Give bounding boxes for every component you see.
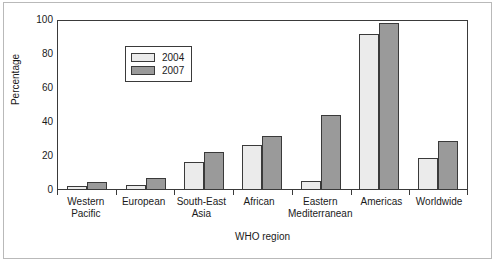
bar-2004 bbox=[418, 158, 438, 189]
x-category-label: European bbox=[115, 196, 173, 219]
y-tick-label: 40 bbox=[42, 117, 53, 127]
x-axis-title: WHO region bbox=[57, 231, 468, 242]
x-tick-mark bbox=[409, 190, 410, 195]
legend-item: 2004 bbox=[131, 51, 184, 64]
legend-item: 2007 bbox=[131, 64, 184, 77]
x-axis-tick-labels: WesternPacificEuropeanSouth-EastAsiaAfri… bbox=[57, 196, 468, 219]
plot-area: 20042007 bbox=[57, 20, 468, 190]
x-category-label-line: Pacific bbox=[57, 208, 115, 220]
x-tick-mark bbox=[292, 190, 293, 195]
x-category-label-line: Eastern bbox=[288, 196, 352, 208]
y-tick-label: 0 bbox=[47, 185, 53, 195]
bar-group bbox=[58, 21, 116, 189]
bar-2004 bbox=[301, 181, 321, 190]
bar-2004 bbox=[126, 185, 146, 189]
legend-label: 2007 bbox=[162, 66, 184, 76]
chart-figure: Percentage 020406080100 20042007 Western… bbox=[0, 0, 496, 263]
chart-legend: 20042007 bbox=[125, 46, 192, 82]
x-tick-mark bbox=[351, 190, 352, 195]
x-category-label-line: Worldwide bbox=[410, 196, 468, 208]
bar-group bbox=[292, 21, 350, 189]
bar-group bbox=[409, 21, 467, 189]
bar-2004 bbox=[359, 34, 379, 189]
x-category-label: WesternPacific bbox=[57, 196, 115, 219]
bar-2004 bbox=[242, 145, 262, 189]
bar-2007 bbox=[321, 115, 341, 189]
bar-2007 bbox=[146, 178, 166, 189]
y-axis-title: Percentage bbox=[10, 25, 21, 135]
x-category-label-line: Western bbox=[57, 196, 115, 208]
x-category-label-line: Mediterranean bbox=[288, 208, 352, 220]
x-category-label-line: African bbox=[230, 196, 288, 208]
y-tick-label: 20 bbox=[42, 151, 53, 161]
bar-2007 bbox=[204, 152, 224, 189]
bar-group bbox=[350, 21, 408, 189]
x-category-label: Worldwide bbox=[410, 196, 468, 219]
y-tick-label: 80 bbox=[42, 49, 53, 59]
x-tick-mark bbox=[57, 190, 58, 195]
bars-layer bbox=[58, 21, 467, 189]
bar-2007 bbox=[262, 136, 282, 189]
x-category-label-line: Americas bbox=[352, 196, 410, 208]
x-category-label-line: South-East bbox=[173, 196, 231, 208]
bar-2007 bbox=[379, 23, 399, 189]
bar-group bbox=[233, 21, 291, 189]
bar-2007 bbox=[87, 182, 107, 189]
x-tick-mark bbox=[467, 190, 468, 195]
x-category-label-line: European bbox=[115, 196, 173, 208]
bar-2004 bbox=[67, 186, 87, 189]
x-tick-mark bbox=[116, 190, 117, 195]
y-tick-label: 100 bbox=[36, 15, 53, 25]
bar-2007 bbox=[438, 141, 458, 189]
x-axis-tick-marks bbox=[57, 190, 468, 195]
x-category-label-line: Asia bbox=[173, 208, 231, 220]
legend-swatch-2007 bbox=[131, 66, 155, 75]
legend-swatch-2004 bbox=[131, 53, 155, 62]
y-tick-label: 60 bbox=[42, 83, 53, 93]
x-category-label: South-EastAsia bbox=[173, 196, 231, 219]
x-category-label: Americas bbox=[352, 196, 410, 219]
bar-2004 bbox=[184, 162, 204, 189]
x-category-label: African bbox=[230, 196, 288, 219]
x-tick-mark bbox=[174, 190, 175, 195]
x-category-label: EasternMediterranean bbox=[288, 196, 352, 219]
x-tick-mark bbox=[233, 190, 234, 195]
legend-label: 2004 bbox=[162, 53, 184, 63]
y-axis-tick-labels: 020406080100 bbox=[23, 20, 53, 190]
